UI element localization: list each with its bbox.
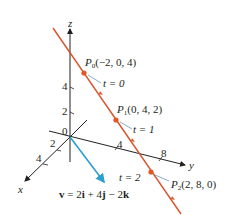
y-axis-label: y [189,160,194,171]
p0-name: P [85,56,92,68]
point-p0 [81,70,86,75]
vector-label: v = 2i + 4j − 2k [59,189,129,200]
origin-label: 0 [62,126,68,137]
p0-t-label: t = 0 [103,78,124,89]
y-tick-label-8: 8 [161,148,167,159]
line-arrow-1 [99,91,103,95]
p2-label: P2(2, 8, 0) [171,179,216,192]
p2-t-label: t = 2 [119,172,140,183]
point-p1 [113,117,118,122]
x-tick-2 [57,150,61,151]
vector-k: k [123,188,129,200]
x-tick-label-4: 4 [36,153,42,164]
z-tick-2 [70,112,74,114]
p0-label: P0(−2, 0, 4) [85,57,136,70]
p1-label: P1(0, 4, 2) [117,104,162,117]
vector-minus: − 2 [106,188,123,200]
x-axis-label: x [18,184,23,195]
x-axis-back [70,120,87,137]
vector-plus: + 4 [85,188,102,200]
x-tick-label-2: 2 [50,138,56,149]
x-tick-4 [43,164,48,165]
z-tick-label-2: 2 [62,106,68,117]
z-tick-4 [70,87,74,89]
p0-coords: (−2, 0, 4) [95,56,136,68]
p1-name: P [117,103,124,115]
point-p2 [148,169,153,174]
z-tick-label-4: 4 [62,81,68,92]
p2-coords: (2, 8, 0) [181,178,216,190]
vector-eq: = 2 [65,188,82,200]
x-axis [25,137,70,181]
p1-t-label: t = 1 [133,124,154,135]
p1-coords: (0, 4, 2) [127,103,162,115]
z-axis-label: z [68,18,72,29]
y-tick-label-4: 4 [117,139,123,150]
p2-name: P [171,178,178,190]
